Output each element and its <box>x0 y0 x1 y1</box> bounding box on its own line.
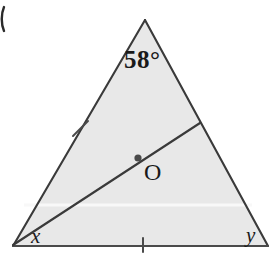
geometry-figure: 58° O x y <box>0 0 273 253</box>
bottom-right-angle-label: y <box>246 225 255 246</box>
point-o-dot-icon <box>134 154 141 161</box>
interior-point-label: O <box>144 160 161 184</box>
apex-angle-label: 58° <box>124 47 161 72</box>
bottom-left-angle-label: x <box>31 226 40 247</box>
cropped-corner-mark-icon <box>2 7 4 31</box>
triangle-diagram-svg <box>0 0 273 253</box>
